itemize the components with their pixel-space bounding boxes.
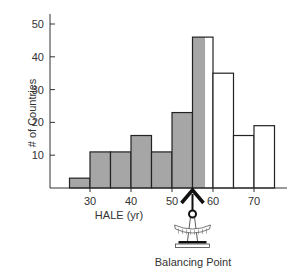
histogram-bar <box>90 152 111 188</box>
balancing-point-fulcrum-icon <box>175 190 211 248</box>
y-axis-label: # of Countries <box>26 78 38 147</box>
histogram-bar <box>234 136 255 188</box>
x-tick-label: 70 <box>248 195 260 207</box>
x-tick-label: 50 <box>166 195 178 207</box>
histogram-bar <box>131 136 152 188</box>
x-axis-label: HALE (yr) <box>95 209 143 221</box>
y-tick-label: 40 <box>32 51 44 63</box>
histogram-bar <box>254 126 275 188</box>
histogram-bar <box>172 113 193 188</box>
histogram-bar <box>152 152 173 188</box>
histogram-bar <box>70 178 91 188</box>
histogram-chart: 1020304050 3040506070 # of Countries HAL… <box>0 0 303 279</box>
y-tick-label: 50 <box>32 18 44 30</box>
x-tick-label: 30 <box>84 195 96 207</box>
histogram-bar <box>213 73 234 188</box>
histogram-bar <box>111 152 132 188</box>
histogram-bar <box>193 37 214 188</box>
x-tick-label: 40 <box>125 195 137 207</box>
balancing-point-label: Balancing Point <box>155 256 231 268</box>
x-tick-label: 60 <box>207 195 219 207</box>
y-tick-label: 10 <box>32 149 44 161</box>
x-axis: 3040506070 <box>50 188 287 207</box>
bars <box>70 37 275 188</box>
